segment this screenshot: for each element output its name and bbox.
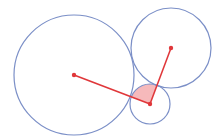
tangent-circles-diagram	[0, 0, 224, 139]
large-center-point	[72, 73, 76, 77]
small-center-point	[148, 102, 152, 106]
upper-right-center-point	[169, 46, 173, 50]
